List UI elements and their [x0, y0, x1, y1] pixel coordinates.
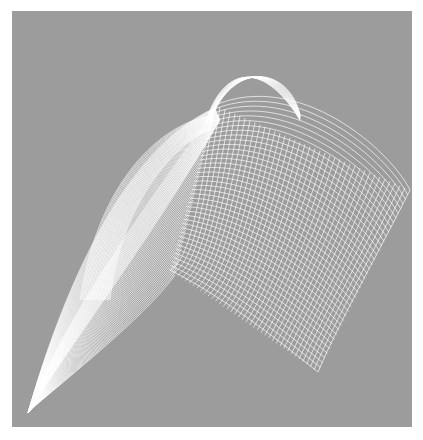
- curve-line: [265, 159, 340, 335]
- curve-line: [307, 183, 395, 364]
- curve-families: [28, 77, 410, 413]
- string-art-figure: [0, 0, 423, 440]
- curve-line: [299, 179, 385, 359]
- curve-line: [223, 136, 285, 307]
